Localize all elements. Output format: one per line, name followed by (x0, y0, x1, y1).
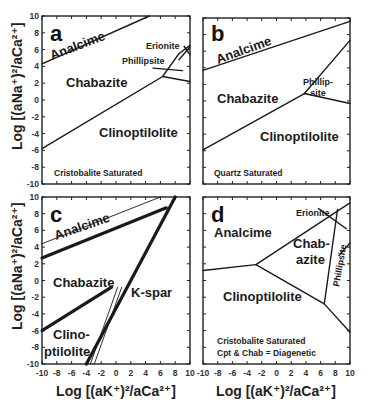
panel-d-label: d (211, 202, 224, 227)
y-tick-label: -6 (31, 145, 39, 155)
x-tick-label: 2 (289, 368, 294, 378)
y-tick-label: -4 (31, 309, 39, 319)
x-tick-label: -6 (68, 368, 76, 378)
x-tick-label: -8 (214, 368, 222, 378)
y-tick-label: 8 (34, 209, 39, 219)
y-tick-labels-top: 1086420-2-4-6-8-10 (27, 11, 40, 189)
field-phillipsite-1: Phillip- (303, 77, 333, 87)
field-chabazite-2: azite (296, 252, 325, 267)
x-tick-label: 6 (158, 368, 163, 378)
x-tick-label: 8 (173, 368, 178, 378)
x-tick-label: 0 (274, 368, 279, 378)
x-tick-label: 2 (128, 368, 133, 378)
y-tick-label: 6 (34, 45, 39, 55)
y-tick-label: 0 (34, 95, 39, 105)
phase-diagram-figure: a Analcime Chabazite Clinoptilolite Erio… (0, 0, 368, 406)
x-axis-label-c: Log [(aK⁺)²/aCa²⁺] (56, 383, 176, 399)
x-tick-label: 8 (333, 368, 338, 378)
field-chabazite-1: Chab- (293, 236, 330, 251)
x-tick-label: 10 (345, 368, 355, 378)
y-tick-label: -6 (31, 326, 39, 336)
y-axis-label-top: Log [(aNa⁺)²/aCa²⁺] (9, 22, 25, 150)
field-clinoptilolite: Clinoptilolite (99, 125, 178, 140)
x-tick-label: -4 (243, 368, 251, 378)
x-tick-label: -10 (36, 368, 49, 378)
field-chabazite: Chabazite (217, 91, 278, 106)
field-erionite: Erionite (146, 41, 180, 51)
panel-b: b Analcime Chabazite Clinoptilolite Phil… (203, 18, 350, 184)
y-tick-label: -10 (27, 179, 40, 189)
y-tick-label: 10 (30, 11, 40, 21)
field-erionite: Erionite (296, 208, 330, 218)
x-tick-label: -10 (197, 368, 210, 378)
x-tick-label: 10 (185, 368, 195, 378)
x-tick-label: 0 (114, 368, 119, 378)
panel-c-label: c (50, 202, 62, 227)
field-clinoptilolite: Clinoptilolite (223, 289, 302, 304)
y-tick-label: 4 (34, 242, 39, 252)
y-tick-label: -4 (31, 129, 39, 139)
y-tick-label: 4 (34, 61, 39, 71)
x-tick-label: -4 (83, 368, 91, 378)
panel-c: c Analcime Chabazite K-spar Clino- ptilo… (42, 197, 190, 364)
boundary-line (163, 76, 190, 81)
y-tick-label: -2 (31, 292, 39, 302)
y-axis-label-bottom: Log [(aNa⁺)²/aCa²⁺] (9, 202, 25, 330)
note-cristobalite: Cristobalite Saturated (54, 168, 142, 178)
note-diagenetic: Cpt & Chab = Diagenetic (217, 348, 316, 358)
y-tick-label: 2 (34, 78, 39, 88)
panel-b-label: b (211, 21, 224, 46)
y-tick-label: 6 (34, 225, 39, 235)
x-tick-label: 4 (304, 368, 309, 378)
field-clinoptilolite: Clinoptilolite (260, 129, 339, 144)
x-tick-labels-c: -10-8-6-4-20246810 (36, 368, 195, 378)
field-clino-2: ptilolite (44, 344, 90, 359)
note-cristobalite: Cristobalite Saturated (217, 336, 305, 346)
field-phillipsite: Phillipsite (331, 244, 348, 288)
boundary-line (203, 265, 256, 271)
field-phillipsite-2: site (310, 88, 326, 98)
boundary-line (324, 304, 350, 332)
x-tick-label: -2 (258, 368, 266, 378)
panel-d: d Analcime Chab- azite Clinoptilolite Er… (203, 197, 350, 364)
x-tick-labels-d: -10-8-6-4-20246810 (197, 368, 355, 378)
field-analcime: Analcime (214, 225, 272, 240)
y-tick-label: 8 (34, 28, 39, 38)
x-tick-label: 6 (318, 368, 323, 378)
field-chabazite: Chabazite (53, 275, 114, 290)
x-axis-label-d: Log [(aK⁺)²/aCa²⁺] (216, 383, 336, 399)
y-tick-label: -8 (31, 342, 39, 352)
boundary-line (94, 287, 121, 364)
field-phillipsite: Phillipsite (122, 56, 165, 66)
field-clino-1: Clino- (53, 327, 90, 342)
note-quartz: Quartz Saturated (214, 168, 283, 178)
panel-a-label: a (50, 21, 63, 46)
boundary-line (42, 287, 112, 330)
panel-a: a Analcime Chabazite Clinoptilolite Erio… (42, 16, 190, 184)
panel-d-boundaries (203, 203, 350, 332)
field-chabazite: Chabazite (66, 75, 127, 90)
y-tick-label: 0 (34, 276, 39, 286)
y-tick-label: -2 (31, 112, 39, 122)
x-tick-label: 4 (143, 368, 148, 378)
y-tick-label: 10 (30, 192, 40, 202)
y-tick-label: 2 (34, 259, 39, 269)
x-tick-label: -8 (53, 368, 61, 378)
field-kspar: K-spar (131, 285, 172, 300)
x-tick-label: -6 (229, 368, 237, 378)
x-tick-label: -2 (97, 368, 105, 378)
y-tick-label: -8 (31, 162, 39, 172)
y-tick-labels-bottom: 1086420-2-4-6-8-10 (27, 192, 40, 369)
